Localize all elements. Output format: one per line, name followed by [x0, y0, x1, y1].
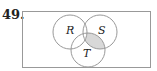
- venn-diagram: R S T: [0, 0, 157, 71]
- label-t: T: [83, 47, 92, 60]
- label-r: R: [65, 24, 74, 37]
- label-s: S: [98, 24, 106, 37]
